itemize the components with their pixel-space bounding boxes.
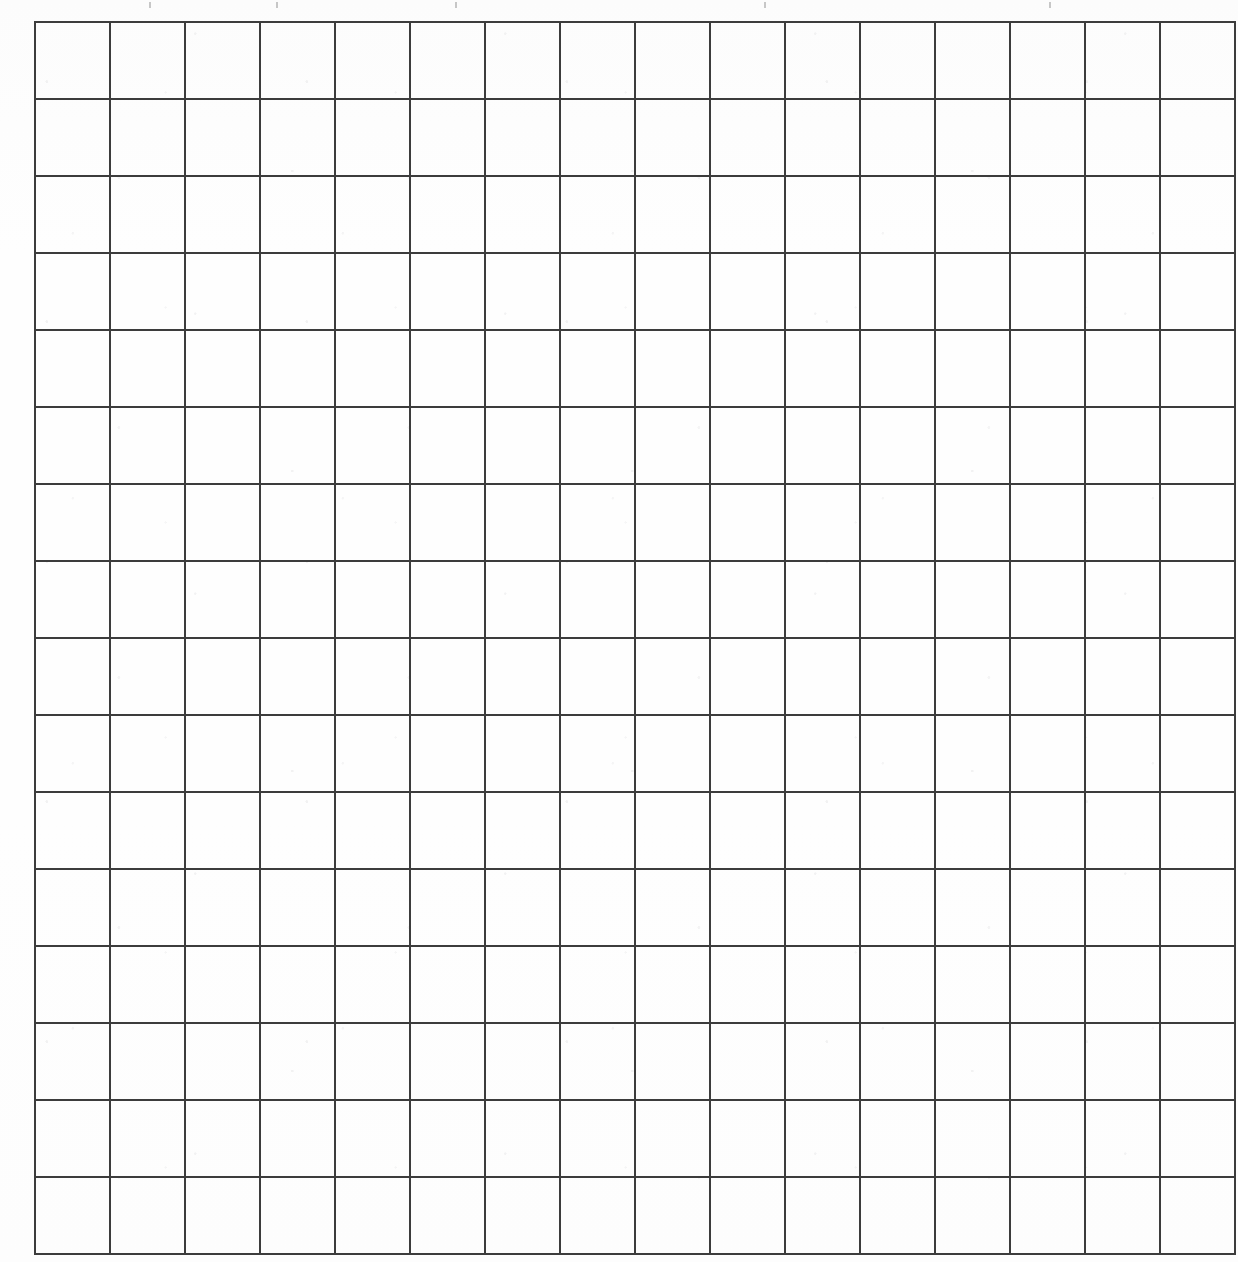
grid-cell[interactable] xyxy=(560,253,635,330)
grid-cell[interactable] xyxy=(1160,561,1235,638)
grid-cell[interactable] xyxy=(935,330,1010,407)
grid-cell[interactable] xyxy=(560,715,635,792)
grid-cell[interactable] xyxy=(1010,484,1085,561)
grid-cell[interactable] xyxy=(485,1100,560,1177)
grid-cell[interactable] xyxy=(35,484,110,561)
grid-cell[interactable] xyxy=(35,99,110,176)
grid-cell[interactable] xyxy=(710,715,785,792)
grid-cell[interactable] xyxy=(1010,715,1085,792)
grid-cell[interactable] xyxy=(1160,99,1235,176)
grid-cell[interactable] xyxy=(410,1023,485,1100)
grid-cell[interactable] xyxy=(485,792,560,869)
grid-cell[interactable] xyxy=(335,330,410,407)
grid-cell[interactable] xyxy=(1085,715,1160,792)
grid-cell[interactable] xyxy=(485,330,560,407)
grid-cell[interactable] xyxy=(560,1023,635,1100)
grid-cell[interactable] xyxy=(485,176,560,253)
grid-cell[interactable] xyxy=(1160,792,1235,869)
grid-cell[interactable] xyxy=(710,407,785,484)
grid-cell[interactable] xyxy=(410,1177,485,1254)
grid-cell[interactable] xyxy=(110,176,185,253)
grid-cell[interactable] xyxy=(1010,792,1085,869)
grid-cell[interactable] xyxy=(260,638,335,715)
grid-cell[interactable] xyxy=(35,22,110,99)
grid-cell[interactable] xyxy=(335,1100,410,1177)
grid-cell[interactable] xyxy=(860,253,935,330)
grid-cell[interactable] xyxy=(710,1023,785,1100)
grid-cell[interactable] xyxy=(635,22,710,99)
grid-cell[interactable] xyxy=(860,99,935,176)
grid-cell[interactable] xyxy=(635,99,710,176)
grid-cell[interactable] xyxy=(185,484,260,561)
grid-cell[interactable] xyxy=(185,330,260,407)
grid-cell[interactable] xyxy=(110,715,185,792)
grid-cell[interactable] xyxy=(185,176,260,253)
grid-cell[interactable] xyxy=(335,484,410,561)
grid-cell[interactable] xyxy=(1010,946,1085,1023)
grid-cell[interactable] xyxy=(335,561,410,638)
grid-cell[interactable] xyxy=(635,1177,710,1254)
grid-cell[interactable] xyxy=(785,484,860,561)
grid-cell[interactable] xyxy=(785,715,860,792)
grid-cell[interactable] xyxy=(785,99,860,176)
grid-cell[interactable] xyxy=(635,253,710,330)
grid-cell[interactable] xyxy=(1010,253,1085,330)
grid-cell[interactable] xyxy=(35,176,110,253)
grid-cell[interactable] xyxy=(785,792,860,869)
grid-cell[interactable] xyxy=(710,561,785,638)
grid-cell[interactable] xyxy=(935,946,1010,1023)
grid-cell[interactable] xyxy=(860,946,935,1023)
grid-cell[interactable] xyxy=(1085,1100,1160,1177)
grid-cell[interactable] xyxy=(785,1023,860,1100)
grid-cell[interactable] xyxy=(1160,1023,1235,1100)
grid-cell[interactable] xyxy=(785,1177,860,1254)
grid-cell[interactable] xyxy=(110,1177,185,1254)
grid-cell[interactable] xyxy=(710,869,785,946)
grid-cell[interactable] xyxy=(710,1177,785,1254)
grid-cell[interactable] xyxy=(560,638,635,715)
grid-cell[interactable] xyxy=(35,1177,110,1254)
grid-cell[interactable] xyxy=(935,253,1010,330)
grid-cell[interactable] xyxy=(335,22,410,99)
grid-cell[interactable] xyxy=(35,715,110,792)
grid-cell[interactable] xyxy=(485,869,560,946)
grid-cell[interactable] xyxy=(410,22,485,99)
grid-cell[interactable] xyxy=(110,99,185,176)
grid-cell[interactable] xyxy=(935,561,1010,638)
grid-cell[interactable] xyxy=(1010,1023,1085,1100)
grid-cell[interactable] xyxy=(1010,869,1085,946)
grid-cell[interactable] xyxy=(410,561,485,638)
grid-cell[interactable] xyxy=(410,407,485,484)
grid-cell[interactable] xyxy=(35,1100,110,1177)
grid-cell[interactable] xyxy=(785,561,860,638)
grid-cell[interactable] xyxy=(560,1177,635,1254)
grid-cell[interactable] xyxy=(935,99,1010,176)
grid-cell[interactable] xyxy=(485,99,560,176)
grid-cell[interactable] xyxy=(1160,407,1235,484)
grid-cell[interactable] xyxy=(785,407,860,484)
grid-cell[interactable] xyxy=(260,946,335,1023)
grid-cell[interactable] xyxy=(1160,22,1235,99)
grid-cell[interactable] xyxy=(110,484,185,561)
grid-cell[interactable] xyxy=(1085,792,1160,869)
grid-cell[interactable] xyxy=(185,1177,260,1254)
grid-cell[interactable] xyxy=(485,1023,560,1100)
grid-cell[interactable] xyxy=(860,22,935,99)
grid-cell[interactable] xyxy=(260,869,335,946)
grid-cell[interactable] xyxy=(635,407,710,484)
grid-cell[interactable] xyxy=(485,407,560,484)
grid-cell[interactable] xyxy=(110,1023,185,1100)
grid-cell[interactable] xyxy=(560,869,635,946)
grid-cell[interactable] xyxy=(935,638,1010,715)
grid-cell[interactable] xyxy=(935,407,1010,484)
grid-cell[interactable] xyxy=(635,176,710,253)
grid-cell[interactable] xyxy=(860,176,935,253)
grid-cell[interactable] xyxy=(485,484,560,561)
grid-cell[interactable] xyxy=(860,638,935,715)
grid-cell[interactable] xyxy=(635,1023,710,1100)
grid-cell[interactable] xyxy=(860,484,935,561)
grid-cell[interactable] xyxy=(860,1100,935,1177)
grid-cell[interactable] xyxy=(560,792,635,869)
grid-cell[interactable] xyxy=(935,715,1010,792)
grid-cell[interactable] xyxy=(1010,176,1085,253)
